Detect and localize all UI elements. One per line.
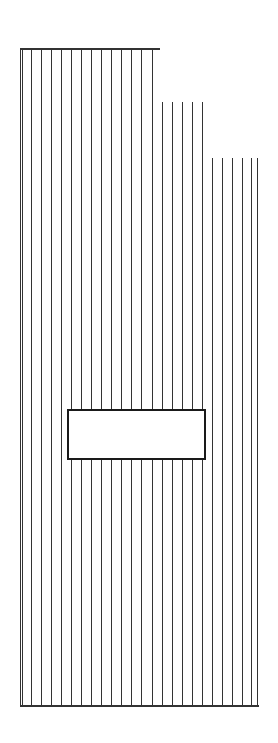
- bottom-rail-line: [20, 705, 259, 707]
- middle-block-line: [162, 102, 163, 706]
- left-block-line: [152, 48, 153, 706]
- top-rail-line: [20, 48, 160, 50]
- left-block-line: [81, 48, 82, 706]
- right-block-line: [212, 158, 213, 706]
- left-block-line: [31, 48, 32, 706]
- left-block-line: [141, 48, 142, 706]
- center-box: [67, 409, 206, 460]
- left-block-line: [91, 48, 92, 706]
- middle-block-line: [202, 102, 203, 706]
- right-block-line: [222, 158, 223, 706]
- left-block-line: [51, 48, 52, 706]
- left-block-line: [131, 48, 132, 706]
- left-block-line: [41, 48, 42, 706]
- left-block-line: [71, 48, 72, 706]
- right-block-line: [251, 158, 252, 706]
- left-block-line: [121, 48, 122, 706]
- left-block-line: [61, 48, 62, 706]
- left-block-line: [101, 48, 102, 706]
- right-block-line: [232, 158, 233, 706]
- middle-block-line: [172, 102, 173, 706]
- middle-block-line: [192, 102, 193, 706]
- right-block-line: [242, 158, 243, 706]
- left-block-line: [111, 48, 112, 706]
- line-drawing-canvas: [0, 0, 278, 743]
- left-block-line: [20, 48, 21, 706]
- middle-block-line: [182, 102, 183, 706]
- left-block-line: [22, 48, 23, 706]
- right-block-line: [257, 158, 258, 706]
